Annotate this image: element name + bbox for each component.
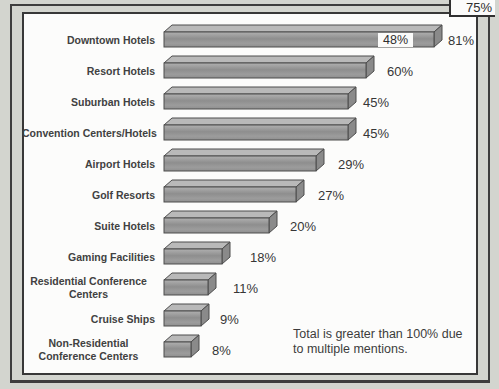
value-label: 18% — [250, 250, 276, 265]
category-label: Golf Resorts — [22, 189, 155, 202]
inline-value-label: 48% — [378, 33, 413, 47]
corner-value-label: 75% — [449, 0, 495, 17]
category-label: Airport Hotels — [22, 158, 155, 171]
bar-3d — [163, 117, 359, 143]
category-label: Gaming Facilities — [22, 251, 155, 264]
category-label: Resort Hotels — [22, 65, 155, 78]
value-label: 29% — [338, 157, 364, 172]
bar-3d — [163, 210, 280, 236]
bar-row: Resort Hotels60% — [22, 55, 478, 86]
bar-3d — [163, 272, 219, 298]
value-label: 45% — [363, 126, 389, 141]
value-label: 20% — [290, 219, 316, 234]
bar-row: Airport Hotels29% — [22, 148, 478, 179]
category-label: Cruise Ships — [22, 313, 155, 326]
value-label: 60% — [387, 64, 413, 79]
footnote: Total is greater than 100% due to multip… — [293, 327, 463, 356]
bar-row: Suite Hotels20% — [22, 210, 478, 241]
bar-3d — [163, 179, 307, 205]
bar-3d — [163, 303, 212, 329]
bar-3d — [163, 55, 377, 81]
value-label: 8% — [212, 343, 231, 358]
bar-3d — [163, 86, 359, 112]
scanned-bar-chart-figure: Downtown Hotels48%81%Resort Hotels60%Sub… — [0, 0, 499, 389]
footnote-line-1: Total is greater than 100% due — [293, 327, 463, 342]
value-label: 27% — [318, 188, 344, 203]
bar-3d — [163, 148, 327, 174]
bar-row: Residential ConferenceCenters11% — [22, 272, 478, 303]
bar-row: Golf Resorts27% — [22, 179, 478, 210]
value-label: 11% — [233, 281, 258, 296]
value-label: 45% — [363, 95, 389, 110]
chart-area: Downtown Hotels48%81%Resort Hotels60%Sub… — [22, 12, 478, 375]
bar-row: Downtown Hotels48%81% — [22, 24, 478, 55]
footnote-line-2: to multiple mentions. — [293, 342, 463, 357]
bar-3d — [163, 241, 233, 267]
bar-row: Suburban Hotels45% — [22, 86, 478, 117]
category-label: Non-ResidentialConference Centers — [22, 337, 155, 363]
category-label: Residential ConferenceCenters — [22, 275, 155, 301]
category-label: Downtown Hotels — [22, 34, 155, 47]
category-label: Convention Centers/Hotels — [22, 127, 155, 140]
value-label: 9% — [220, 312, 239, 327]
bar-row: Convention Centers/Hotels45% — [22, 117, 478, 148]
value-label: 81% — [448, 33, 474, 48]
bar-rows: Downtown Hotels48%81%Resort Hotels60%Sub… — [22, 12, 478, 375]
bar-row: Gaming Facilities18% — [22, 241, 478, 272]
category-label: Suburban Hotels — [22, 96, 155, 109]
bar-3d — [163, 334, 202, 360]
category-label: Suite Hotels — [22, 220, 155, 233]
